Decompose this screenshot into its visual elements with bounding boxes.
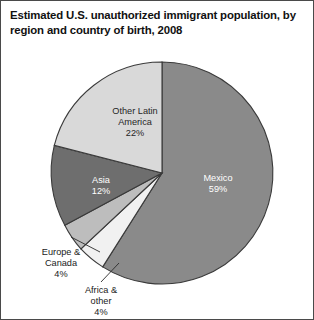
pie-label-africa-other-name-1: Africa & (85, 285, 117, 295)
pie-label-asia: Asia 12% (92, 175, 111, 196)
pie-label-asia-value: 12% (92, 186, 110, 196)
pie-label-africa-other: Africa & other 4% (85, 285, 117, 317)
pie-label-mexico-name: Mexico (203, 173, 232, 183)
pie-label-other-latin-america-name-2: America (118, 117, 153, 127)
pie-label-other-latin-america-name-1: Other Latin (112, 106, 157, 116)
pie-label-europe-canada-name-1: Europe & (42, 247, 80, 257)
pie-label-europe-canada: Europe & Canada 4% (42, 247, 80, 279)
pie-label-europe-canada-name-2: Canada (45, 258, 78, 268)
pie-label-africa-other-name-2: other (91, 296, 112, 306)
pie-label-other-latin-america-value: 22% (126, 128, 144, 138)
pie-label-asia-name: Asia (92, 175, 111, 185)
pie-chart: Mexico 59% Other Latin America 22% Asia … (1, 1, 314, 320)
pie-label-mexico-value: 59% (209, 184, 227, 194)
pie-label-africa-other-value: 4% (94, 307, 107, 317)
pie-label-europe-canada-value: 4% (54, 269, 67, 279)
chart-figure-panel: Estimated U.S. unauthorized immigrant po… (0, 0, 314, 320)
